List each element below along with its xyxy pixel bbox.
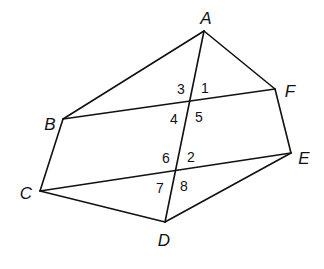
vertex-label-E: E [298, 150, 309, 167]
segment-BA [63, 31, 204, 119]
vertex-label-B: B [44, 116, 55, 133]
segment-AF [204, 31, 275, 89]
vertex-label-D: D [158, 232, 170, 249]
angle-label-3: 3 [177, 82, 185, 96]
angle-label-4: 4 [170, 112, 178, 126]
angle-label-5: 5 [195, 110, 203, 124]
segment-BF [63, 89, 275, 119]
geometry-diagram: AFEDCB31456278 [0, 0, 324, 269]
angle-label-8: 8 [180, 179, 188, 193]
vertex-label-A: A [200, 10, 211, 27]
segment-DC [40, 191, 165, 222]
angle-label-6: 6 [162, 151, 170, 165]
angle-label-2: 2 [187, 150, 195, 164]
figure-lines [0, 0, 324, 269]
angle-label-7: 7 [156, 181, 164, 195]
angle-label-1: 1 [201, 81, 209, 95]
vertex-label-C: C [20, 185, 32, 202]
vertex-label-F: F [285, 83, 295, 100]
